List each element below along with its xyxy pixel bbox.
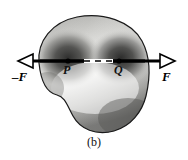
- arrowhead-neg-f: [18, 54, 33, 68]
- point-label-q: Q: [114, 64, 123, 76]
- arrowhead-pos-f: [160, 54, 175, 68]
- force-label-pos-f: F: [162, 70, 171, 83]
- force-label-neg-f: –F: [12, 70, 27, 83]
- body-left-shadow: [32, 72, 64, 104]
- point-label-p: P: [63, 64, 70, 76]
- figure-caption: (b): [0, 136, 188, 148]
- physics-figure: –F F P Q (b): [0, 0, 188, 160]
